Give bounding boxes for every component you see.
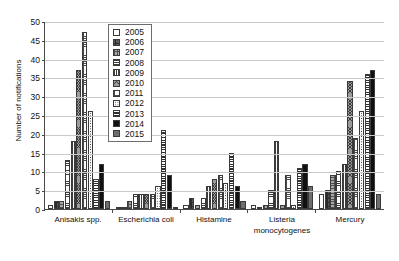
bar	[195, 205, 200, 209]
legend-item[interactable]: 2010	[113, 78, 144, 88]
legend-item-label: 2015	[125, 129, 144, 139]
legend-swatch-icon	[113, 130, 120, 137]
x-axis-tick-mark	[112, 209, 113, 213]
legend-item[interactable]: 2011	[113, 88, 144, 98]
y-axis-tick-mark	[42, 135, 45, 136]
x-axis-category-label: Anisakis spp.	[44, 214, 112, 236]
legend-swatch-icon	[113, 110, 120, 117]
y-axis-tick-mark	[42, 191, 45, 192]
bar	[347, 81, 352, 209]
bar	[161, 130, 166, 209]
y-axis-title: Number of notifications	[14, 31, 23, 171]
legend-item-label: 2010	[125, 78, 144, 88]
legend-item[interactable]: 2013	[113, 109, 144, 119]
legend-item[interactable]: 2009	[113, 68, 144, 78]
legend-item[interactable]: 2014	[113, 119, 144, 129]
y-axis-tick-mark	[42, 78, 45, 79]
legend-swatch-icon	[113, 100, 120, 107]
y-axis-tick-mark	[42, 116, 45, 117]
bar	[173, 207, 178, 209]
y-axis-tick-mark	[42, 172, 45, 173]
bar-chart: Number of notifications 0510152025303540…	[0, 0, 399, 261]
bar	[99, 164, 104, 209]
legend-item-label: 2008	[125, 58, 144, 68]
x-axis-category-label: Listeria monocytogenes	[248, 214, 316, 236]
bar	[365, 74, 370, 209]
bar	[280, 205, 285, 209]
gridline	[45, 97, 384, 98]
legend-item[interactable]: 2006	[113, 37, 144, 47]
legend-item[interactable]: 2005	[113, 27, 144, 37]
bar	[48, 205, 53, 209]
legend-swatch-icon	[113, 90, 120, 97]
y-axis-tick-mark	[42, 210, 45, 211]
bar	[319, 194, 324, 209]
bar	[302, 164, 307, 209]
bar	[268, 190, 273, 209]
gridline	[45, 135, 384, 136]
gridline	[45, 41, 384, 42]
bar	[144, 194, 149, 209]
legend-swatch-icon	[113, 69, 120, 76]
legend-swatch-icon	[113, 29, 120, 36]
bar	[65, 160, 70, 209]
legend-item-label: 2012	[125, 98, 144, 108]
x-axis-category-label: Histamine	[180, 214, 248, 236]
bar	[88, 111, 93, 209]
legend-item-label: 2006	[125, 37, 144, 47]
bar	[235, 186, 240, 209]
bar	[370, 70, 375, 209]
y-axis-tick-mark	[42, 60, 45, 61]
x-axis-tick-mark	[180, 209, 181, 213]
y-axis-tick-mark	[42, 154, 45, 155]
bar	[76, 70, 81, 209]
plot-area: 05101520253035404550	[44, 22, 384, 210]
x-axis-tick-mark	[315, 209, 316, 213]
bar	[359, 111, 364, 209]
bar	[71, 141, 76, 209]
bar	[376, 194, 381, 209]
bar	[263, 205, 268, 209]
bar	[183, 205, 188, 209]
bar	[325, 190, 330, 209]
x-axis-category-label: Mercury	[316, 214, 384, 236]
bar	[105, 201, 110, 209]
x-axis-category-label: Escherichia coli	[112, 214, 180, 236]
legend-item[interactable]: 2015	[113, 129, 144, 139]
bar	[223, 183, 228, 209]
bar	[59, 201, 64, 209]
y-axis-tick-mark	[42, 97, 45, 98]
legend-item-label: 2005	[125, 27, 144, 37]
y-axis-tick-mark	[42, 41, 45, 42]
bar	[308, 186, 313, 209]
bar	[155, 186, 160, 209]
gridline	[45, 22, 384, 23]
x-axis-category-labels: Anisakis spp.Escherichia coliHistamineLi…	[44, 214, 384, 236]
bar	[291, 205, 296, 209]
bar	[212, 179, 217, 209]
bar	[121, 207, 126, 209]
bar	[240, 201, 245, 209]
bar	[342, 164, 347, 209]
bar	[201, 198, 206, 209]
bar	[206, 186, 211, 209]
bar	[116, 207, 121, 209]
legend-item[interactable]: 2008	[113, 58, 144, 68]
gridline	[45, 172, 384, 173]
bar	[274, 141, 279, 209]
gridline	[45, 60, 384, 61]
gridline	[45, 191, 384, 192]
legend-swatch-icon	[113, 49, 120, 56]
bar	[138, 194, 143, 209]
legend-item[interactable]: 2007	[113, 47, 144, 57]
bar	[257, 207, 262, 209]
legend-item-label: 2007	[125, 47, 144, 57]
legend-item-label: 2014	[125, 119, 144, 129]
y-axis-tick-mark	[42, 22, 45, 23]
legend-item-label: 2009	[125, 68, 144, 78]
legend: 2005200620072008200920102011201220132014…	[108, 24, 152, 142]
legend-item[interactable]: 2012	[113, 98, 144, 108]
legend-item-label: 2013	[125, 109, 144, 119]
bar	[189, 198, 194, 209]
legend-swatch-icon	[113, 39, 120, 46]
